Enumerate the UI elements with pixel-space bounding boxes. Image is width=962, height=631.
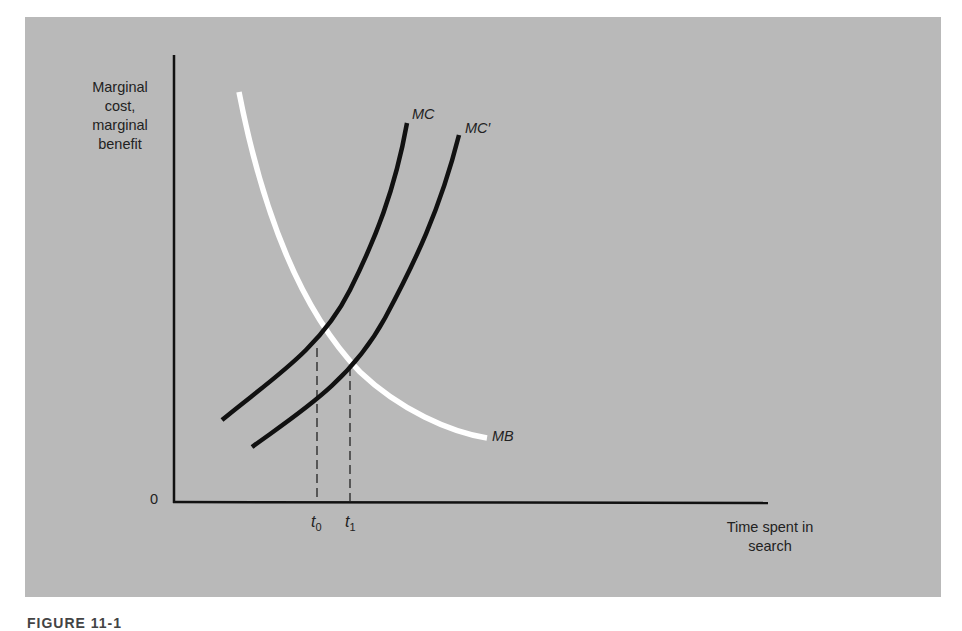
x-axis bbox=[173, 502, 768, 503]
mc-prime-label: MC′ bbox=[465, 120, 490, 136]
mb-label: MB bbox=[492, 428, 514, 444]
y-axis-label-line: benefit bbox=[72, 135, 168, 154]
y-axis-label-line: Marginal bbox=[72, 78, 168, 97]
y-axis-label-line: marginal bbox=[72, 116, 168, 135]
x-axis-label: Time spent in search bbox=[700, 518, 840, 556]
figure-caption: FIGURE 11-1 bbox=[27, 615, 122, 631]
x-axis-label-line: Time spent in bbox=[700, 518, 840, 537]
y-axis-label-line: cost, bbox=[72, 97, 168, 116]
t0-label-sub: 0 bbox=[315, 521, 321, 533]
mc-curve bbox=[222, 123, 407, 420]
t1-label-sub: 1 bbox=[349, 521, 355, 533]
y-axis-label: Marginal cost, marginal benefit bbox=[72, 78, 168, 154]
mc-prime-curve bbox=[252, 135, 459, 447]
t0-label: t0 bbox=[311, 513, 322, 533]
x-axis-label-line: search bbox=[700, 537, 840, 556]
t1-label: t1 bbox=[345, 513, 356, 533]
mc-label: MC bbox=[412, 106, 435, 122]
origin-label: 0 bbox=[150, 491, 158, 507]
